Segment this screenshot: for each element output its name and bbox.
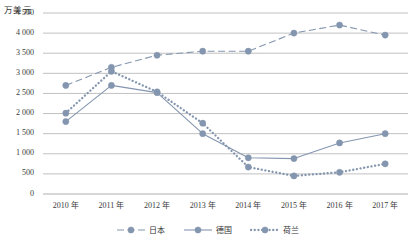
- data-point-德国-2016: [336, 140, 342, 146]
- data-point-荷兰-2013: [200, 120, 206, 126]
- legend-label-日本: 日本: [149, 224, 165, 235]
- data-point-荷兰-2010: [63, 110, 69, 116]
- data-point-日本-2017: [382, 32, 388, 38]
- data-point-荷兰-2014: [245, 164, 251, 170]
- legend-marker: [128, 226, 134, 232]
- legend-label-荷兰: 荷兰: [283, 224, 299, 235]
- plot-area: [0, 0, 415, 238]
- data-point-荷兰-2016: [336, 169, 342, 175]
- data-point-德国-2014: [245, 155, 251, 161]
- data-point-荷兰-2017: [382, 161, 388, 167]
- data-point-德国-2015: [291, 156, 297, 162]
- legend-marker: [195, 226, 201, 232]
- data-point-日本-2015: [291, 30, 297, 36]
- legend-swatch-德国: [183, 225, 213, 235]
- data-point-荷兰-2011: [108, 68, 114, 74]
- legend-item-德国[interactable]: 德国: [183, 224, 232, 235]
- data-point-日本-2013: [200, 48, 206, 54]
- data-point-日本-2012: [154, 52, 160, 58]
- legend-label-德国: 德国: [216, 224, 232, 235]
- gridlines: [43, 13, 408, 194]
- series-德国: [63, 82, 389, 161]
- series-日本: [63, 22, 389, 89]
- series-line-德国: [66, 85, 385, 158]
- data-point-德国-2011: [108, 82, 114, 88]
- data-point-荷兰-2012: [154, 89, 160, 95]
- legend-swatch-日本: [116, 225, 146, 235]
- data-point-日本-2014: [245, 48, 251, 54]
- legend-item-荷兰[interactable]: 荷兰: [250, 224, 299, 235]
- legend-marker: [262, 226, 268, 232]
- series-line-日本: [66, 25, 385, 85]
- line-chart: 万美元 05001 0001 5002 0002 5003 0003 5004 …: [0, 0, 415, 238]
- data-point-德国-2013: [200, 131, 206, 137]
- legend-swatch-荷兰: [250, 225, 280, 235]
- legend-item-日本[interactable]: 日本: [116, 224, 165, 235]
- data-point-荷兰-2015: [291, 173, 297, 179]
- data-point-日本-2010: [63, 82, 69, 88]
- data-point-德国-2017: [382, 131, 388, 137]
- data-point-德国-2010: [63, 119, 69, 125]
- data-point-日本-2016: [336, 22, 342, 28]
- chart-legend: 日本德国荷兰: [0, 224, 415, 235]
